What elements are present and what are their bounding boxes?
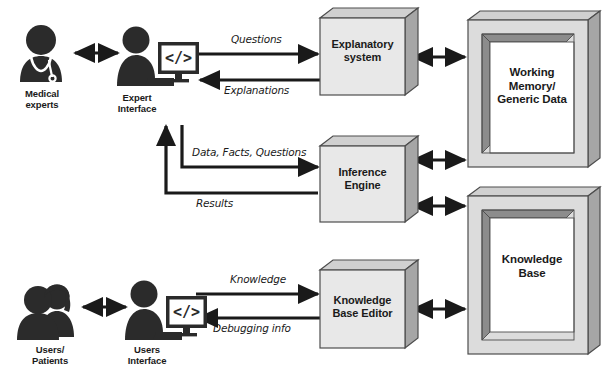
box-explanatory-system[interactable] <box>320 8 418 95</box>
person-at-monitor-icon-expert: </> <box>117 27 199 87</box>
doctor-icon <box>20 25 62 82</box>
screen-code-glyph-users: </> <box>173 303 200 321</box>
connector-results <box>166 126 318 193</box>
box-knowledge-base-editor[interactable] <box>320 260 418 348</box>
two-people-icon <box>17 285 74 341</box>
connector-data-facts-questions <box>182 125 318 167</box>
diagram-canvas: </> </> <box>0 0 612 378</box>
store-knowledge-base[interactable] <box>468 187 600 354</box>
store-working-memory[interactable] <box>468 11 600 167</box>
screen-code-glyph-expert: </> <box>165 49 192 67</box>
person-at-monitor-icon-users: </> <box>125 281 207 341</box>
box-inference-engine[interactable] <box>320 136 418 222</box>
